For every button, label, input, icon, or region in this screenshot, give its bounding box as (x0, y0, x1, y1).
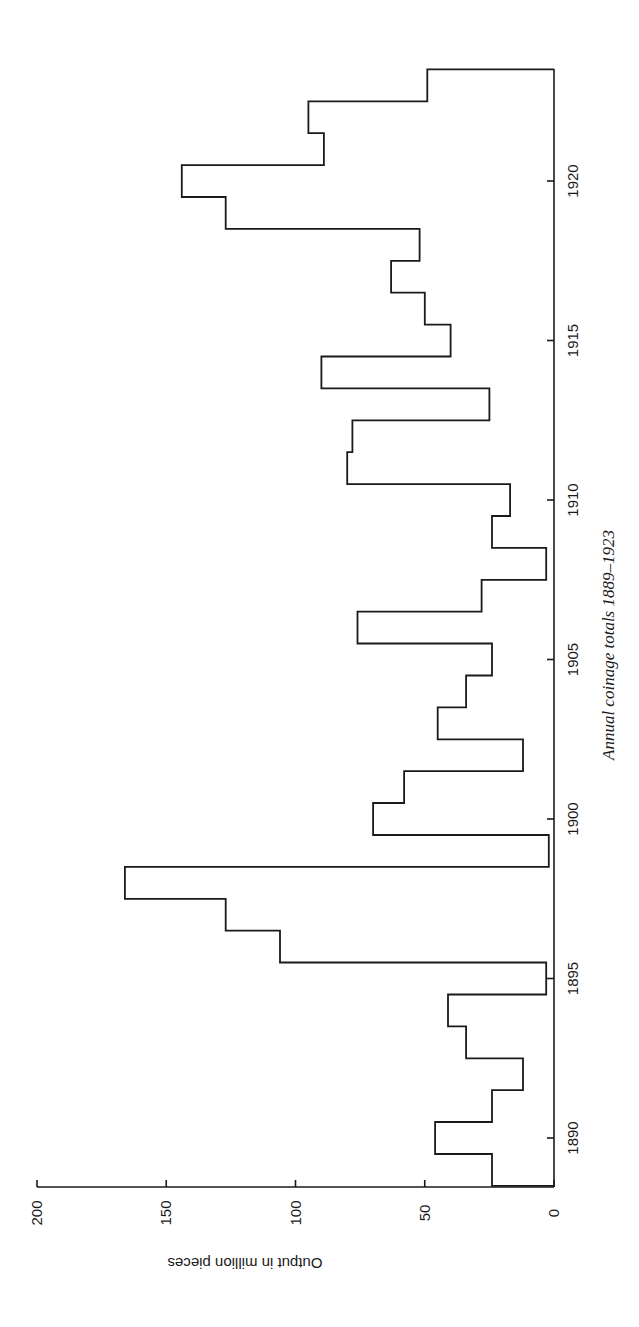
year-tick-label: 1900 (564, 802, 581, 835)
chart-caption: Annual coinage totals 1889–1923 (599, 530, 618, 761)
y-axis-title: Output in million pieces (167, 1255, 322, 1272)
step-series (125, 69, 554, 1185)
year-tick-label: 1905 (564, 643, 581, 676)
year-tick-label: 1920 (564, 164, 581, 197)
coinage-chart: 050100150200 189018951900190519101915192… (0, 0, 639, 1327)
axes (37, 69, 554, 1187)
value-tick-label: 50 (416, 1205, 433, 1222)
year-tick-label: 1895 (564, 962, 581, 995)
year-axis-ticks: 1890189519001905191019151920 (547, 164, 581, 1154)
value-tick-label: 150 (157, 1200, 174, 1225)
year-tick-label: 1890 (564, 1121, 581, 1154)
value-tick-label: 0 (545, 1209, 562, 1217)
year-tick-label: 1915 (564, 324, 581, 357)
value-tick-label: 200 (28, 1200, 45, 1225)
year-tick-label: 1910 (564, 483, 581, 516)
coinage-step-line (125, 69, 554, 1185)
value-tick-label: 100 (287, 1200, 304, 1225)
